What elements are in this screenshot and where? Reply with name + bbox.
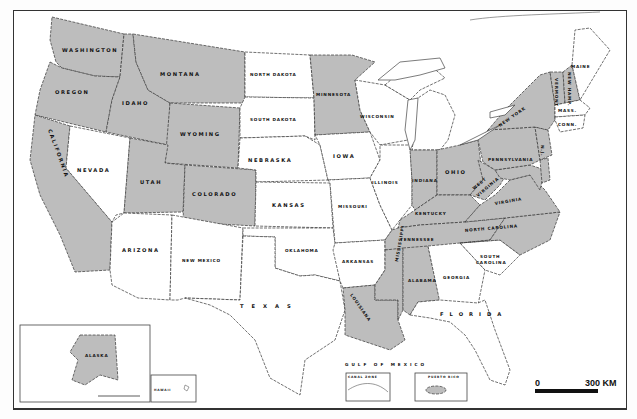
label-kansas: KANSAS xyxy=(272,202,305,208)
label-south-carolina-1: SOUTH xyxy=(480,254,500,259)
label-north-dakota: NORTH DAKOTA xyxy=(250,72,297,77)
label-vermont: VERMONT xyxy=(554,78,559,107)
island-puerto-rico[interactable] xyxy=(426,386,446,394)
label-utah: UTAH xyxy=(140,179,162,185)
label-arizona: ARIZONA xyxy=(122,247,160,253)
label-ohio: OHIO xyxy=(445,169,467,175)
label-colorado: COLORADO xyxy=(192,191,237,197)
label-new-jersey: N.J. xyxy=(540,145,545,156)
label-hawaii: HAWAII xyxy=(154,388,171,392)
label-massachusetts: MASS. xyxy=(558,108,577,113)
scale-bar xyxy=(535,389,598,393)
label-wyoming: WYOMING xyxy=(180,131,221,137)
label-minnesota: MINNESOTA xyxy=(316,92,351,97)
label-pennsylvania: PENNSYLVANIA xyxy=(488,157,533,162)
label-wisconsin: WISCONSIN xyxy=(360,114,395,119)
label-illinois: ILLINOIS xyxy=(372,180,399,185)
state-arizona[interactable] xyxy=(110,213,172,300)
label-south-carolina-2: CAROLINA xyxy=(476,260,506,265)
label-new-mexico: NEW MEXICO xyxy=(182,258,221,263)
scale-end-label: 300 KM xyxy=(585,378,617,388)
label-nevada: NEVADA xyxy=(77,167,110,173)
label-maine: MAINE xyxy=(571,64,590,69)
label-texas: TEXAS xyxy=(240,303,299,309)
label-oregon: OREGON xyxy=(55,89,90,95)
scale-start-label: 0 xyxy=(535,378,540,388)
label-puerto-rico: PUERTO RICO xyxy=(428,375,459,379)
label-oklahoma: OKLAHOMA xyxy=(285,248,319,253)
label-connecticut: CONN. xyxy=(558,122,577,127)
label-canal-zone: CANAL ZONE xyxy=(348,375,378,379)
coastline-north xyxy=(470,12,600,20)
label-georgia: GEORGIA xyxy=(443,275,470,280)
label-montana: MONTANA xyxy=(160,71,201,77)
label-idaho: IDAHO xyxy=(122,100,149,106)
label-new-hampshire: NEW HAMP. xyxy=(567,72,572,106)
state-arkansas[interactable] xyxy=(333,240,385,288)
label-south-dakota: SOUTH DAKOTA xyxy=(250,117,297,122)
label-arkansas: ARKANSAS xyxy=(342,259,374,264)
label-washington: WASHINGTON xyxy=(62,47,118,53)
label-florida: FLORIDA xyxy=(440,311,507,317)
state-michigan-lower[interactable] xyxy=(412,90,455,150)
label-iowa: IOWA xyxy=(333,153,355,159)
state-delaware[interactable] xyxy=(540,158,550,183)
label-kentucky: KENTUCKY xyxy=(415,211,447,216)
label-gulf-of-mexico: GULF OF MEXICO xyxy=(345,362,427,367)
us-map: WASHINGTON OREGON CALIFORNIA IDAHO NEVAD… xyxy=(0,0,637,419)
label-alabama: ALABAMA xyxy=(408,278,437,283)
label-alaska: ALASKA xyxy=(85,353,108,358)
label-missouri: MISSOURI xyxy=(338,204,368,209)
state-new-york[interactable] xyxy=(488,72,555,130)
label-tennessee: TENNESSEE xyxy=(400,237,434,242)
label-nebraska: NEBRASKA xyxy=(248,157,292,163)
label-indiana: INDIANA xyxy=(412,178,438,183)
